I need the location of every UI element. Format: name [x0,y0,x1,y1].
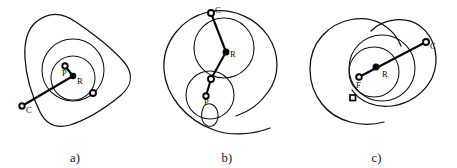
point-r-label-a: R [77,76,83,86]
point-c-marker-b[interactable] [208,10,214,16]
panel-a: C P R a) [0,0,150,168]
radius-line-a [22,76,73,106]
point-r-marker-a[interactable] [70,73,75,78]
point-r-label-c: R [382,69,388,79]
point-f-label-c: F [356,80,361,90]
caption-b: b) [148,151,306,166]
outer-trochoid-curve-a [25,15,131,127]
point-c-marker-c[interactable] [423,39,429,45]
tracing-point-marker-c[interactable] [350,95,356,101]
point-p-label-a: P [62,68,67,78]
panel-c: C R F c) [296,0,457,168]
point-r-marker-b[interactable] [223,49,229,55]
point-c-label-b: C [215,5,221,15]
point-r-label-b: R [230,49,236,59]
tracing-point-marker-a[interactable] [90,90,96,96]
caption-c: c) [296,151,457,166]
panel-c-drawing: C R F [296,0,457,142]
panel-a-drawing: C P R [0,0,150,142]
point-r-marker-c[interactable] [373,64,379,70]
second-arc-c [352,20,436,107]
junction-point-marker-b[interactable] [208,76,214,82]
middle-circle-c [349,35,415,101]
outer-spiral-curve-b [164,11,277,134]
caption-a: a) [0,151,150,166]
panel-b: C R P b) [148,0,306,168]
point-f-marker-c[interactable] [356,74,362,80]
point-c-label-c: C [430,41,436,51]
panel-b-drawing: C R P [148,0,306,142]
point-c-label-a: C [26,105,32,115]
figure-canvas: C P R a) C R P [0,0,457,168]
bottom-loop-b [202,104,218,127]
point-p-label-b: P [204,97,209,107]
point-c-marker-a[interactable] [19,103,24,108]
